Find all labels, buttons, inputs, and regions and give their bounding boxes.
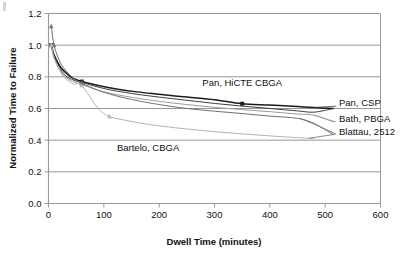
x-axis-title: Dwell Time (minutes) bbox=[167, 236, 262, 247]
series-label-2: Bath, PBGA bbox=[339, 113, 391, 124]
y-axis-title: Normalized Time to Failure bbox=[7, 47, 18, 168]
data-marker bbox=[49, 24, 54, 29]
y-tick-label: 1.0 bbox=[28, 40, 41, 51]
x-tick-label: 100 bbox=[96, 209, 112, 220]
series-line bbox=[51, 26, 333, 134]
series-0 bbox=[49, 43, 333, 108]
series-label-4: Bartelo, CBGA bbox=[117, 142, 180, 153]
data-series-layer bbox=[49, 24, 334, 139]
scan-artifact bbox=[3, 2, 6, 11]
y-tick-label: 1.2 bbox=[28, 8, 41, 19]
line-chart: 0.00.20.40.60.81.01.2 010020030040050060… bbox=[0, 0, 416, 257]
y-tick-label: 0.4 bbox=[28, 135, 41, 146]
y-tick-label: 0.2 bbox=[28, 166, 41, 177]
series-4 bbox=[49, 43, 314, 139]
x-tick-label: 600 bbox=[373, 209, 389, 220]
chart-figure: 0.00.20.40.60.81.01.2 010020030040050060… bbox=[0, 0, 416, 257]
y-tick-labels: 0.00.20.40.60.81.01.2 bbox=[28, 8, 41, 209]
x-tick-labels: 0100200300400500600 bbox=[46, 209, 389, 220]
y-tick-label: 0.0 bbox=[28, 198, 41, 209]
series-line bbox=[51, 45, 314, 138]
x-tick-label: 500 bbox=[317, 209, 333, 220]
leader-line bbox=[313, 124, 336, 135]
leader-line bbox=[313, 115, 336, 122]
y-tick-label: 0.6 bbox=[28, 103, 41, 114]
leader-line bbox=[300, 118, 313, 123]
data-marker bbox=[240, 102, 244, 106]
y-tick-label: 0.8 bbox=[28, 71, 41, 82]
x-tick-label: 300 bbox=[207, 209, 223, 220]
x-tick-label: 0 bbox=[46, 209, 51, 220]
gridlines bbox=[49, 14, 381, 172]
series-label-3: Blattau, 2512 bbox=[339, 126, 395, 137]
x-tick-label: 400 bbox=[262, 209, 278, 220]
series-label-0: Pan, HiCTE CBGA bbox=[202, 77, 282, 88]
leader-line bbox=[314, 106, 336, 107]
x-tick-label: 200 bbox=[151, 209, 167, 220]
series-1 bbox=[49, 43, 333, 112]
axis-ticks bbox=[45, 14, 381, 208]
leader-line bbox=[309, 134, 336, 138]
series-label-1: Pan, CSP bbox=[339, 97, 381, 108]
series-3 bbox=[49, 24, 334, 135]
